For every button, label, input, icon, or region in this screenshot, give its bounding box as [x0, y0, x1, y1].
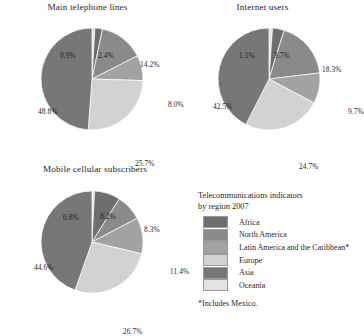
- pie-slice-percentage-label: 0.8%: [63, 213, 79, 222]
- legend-entry: Africa: [203, 216, 350, 229]
- chart-panel-internet-users: Internet users 1.1%3.7%18.3%9.7%24.7%42.…: [175, 0, 350, 158]
- pie-slice-percentage-label: 48.8%: [38, 107, 58, 116]
- pie-svg-internet-users: [217, 27, 321, 131]
- pie-slice-percentage-label: 18.3%: [322, 65, 342, 74]
- legend-entry-label: Asia: [239, 268, 254, 277]
- legend-color-swatch: [203, 279, 228, 291]
- pie-slice-percentage-label: 8.3%: [144, 225, 160, 234]
- legend-color-swatch: [203, 267, 228, 279]
- chart-title-main-telephone-lines: Main telephone lines: [0, 2, 175, 12]
- pie-slice-percentage-label: 2.4%: [98, 51, 114, 60]
- legend-title-line-1: Telecommunications indicators: [198, 191, 303, 200]
- legend-entry-label: Africa: [239, 218, 259, 227]
- chart-title-mobile-cellular-subscribers: Mobile cellular subscribers: [0, 164, 190, 174]
- pie-chart-mobile-cellular-subscribers: [40, 190, 144, 294]
- pie-chart-internet-users: [217, 27, 321, 131]
- pie-slice-percentage-label: 14.2%: [140, 60, 160, 69]
- legend-entry: Europe: [203, 254, 350, 267]
- pie-slice-percentage-label: 26.7%: [123, 327, 143, 336]
- legend-entry-label: Europe: [239, 256, 262, 265]
- legend-title-line-2: by region 2007: [198, 202, 249, 211]
- pie-svg-mobile-cellular-subscribers: [40, 190, 144, 294]
- pie-slice-percentage-label: 11.4%: [170, 267, 189, 276]
- chart-title-internet-users: Internet users: [175, 2, 350, 12]
- pie-slice-percentage-label: 8.2%: [100, 212, 116, 221]
- pie-slice-percentage-label: 1.1%: [239, 51, 255, 60]
- chart-legend: Telecommunications indicators by region …: [190, 190, 350, 316]
- legend-entry: North America: [203, 229, 350, 242]
- legend-entry-label: North America: [239, 230, 287, 239]
- legend-entry: Oceania: [203, 279, 350, 292]
- chart-panel-mobile-cellular-subscribers: Mobile cellular subscribers 0.8%8.2%8.3%…: [0, 158, 190, 316]
- legend-color-swatch: [203, 229, 228, 241]
- pie-slice-percentage-label: 0.9%: [60, 51, 76, 60]
- legend-entries: AfricaNorth AmericaLatin America and the…: [203, 216, 350, 292]
- legend-entry: Asia: [203, 266, 350, 279]
- chart-panel-main-telephone-lines: Main telephone lines 0.9%2.4%14.2%8.0%25…: [0, 0, 175, 158]
- legend-color-swatch: [203, 241, 228, 253]
- legend-entry-label: Latin America and the Caribbean*: [239, 243, 349, 252]
- pie-slice-percentage-label: 42.5%: [213, 102, 233, 111]
- pie-slice-percentage-label: 9.7%: [348, 107, 364, 116]
- pie-slice-percentage-label: 3.7%: [274, 51, 290, 60]
- legend-title: Telecommunications indicators by region …: [198, 190, 350, 212]
- legend-entry-label: Oceania: [239, 281, 265, 290]
- pie-slice: [88, 79, 143, 130]
- legend-entry: Latin America and the Caribbean*: [203, 241, 350, 254]
- pie-slice-percentage-label: 44.6%: [34, 263, 54, 272]
- pie-slice-percentage-label: 24.7%: [299, 162, 319, 171]
- legend-footnote: *Includes Mexico.: [198, 299, 350, 308]
- legend-color-swatch: [203, 216, 228, 228]
- legend-color-swatch: [203, 254, 228, 266]
